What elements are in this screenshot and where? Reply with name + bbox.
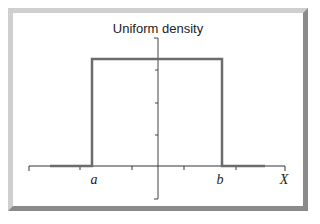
chart-title: Uniform density <box>113 21 204 36</box>
y-axis <box>154 38 158 199</box>
x-axis-label: X <box>279 172 289 187</box>
tick-label-a: a <box>91 172 98 187</box>
uniform-density-chart: Uniform density a b X <box>0 0 320 224</box>
tick-label-b: b <box>217 172 224 187</box>
